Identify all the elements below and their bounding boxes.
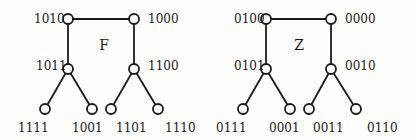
- edge-0010-0110: [331, 69, 356, 109]
- edge-1100-1101: [111, 69, 134, 109]
- node-1101: [106, 104, 116, 114]
- node-label-1011: 1011: [36, 59, 67, 73]
- node-label-1101: 1101: [116, 121, 147, 135]
- edge-0010-0011: [309, 69, 331, 109]
- node-0011: [304, 104, 314, 114]
- node-label-0111: 0111: [216, 121, 247, 135]
- node-label-0000: 0000: [345, 12, 376, 26]
- node-label-0100: 0100: [234, 12, 265, 26]
- node-1000: [129, 14, 139, 24]
- node-0110: [351, 104, 361, 114]
- node-label-0110: 0110: [367, 121, 398, 135]
- node-0111: [238, 104, 248, 114]
- edge-1011-1111: [45, 69, 68, 109]
- nodes-layer: [40, 14, 361, 114]
- node-1001: [87, 104, 97, 114]
- node-label-0101: 0101: [234, 59, 265, 73]
- edge-0101-0111: [243, 69, 266, 109]
- tree-title-F: F: [99, 37, 109, 53]
- labels-layer: 10101000101111001111100111011110F0100000…: [18, 12, 398, 135]
- edge-1011-1001: [68, 69, 92, 109]
- edges-layer: [45, 19, 356, 109]
- node-1111: [40, 104, 50, 114]
- node-label-0010: 0010: [345, 59, 376, 73]
- node-1100: [129, 64, 139, 74]
- tree-title-Z: Z: [294, 37, 304, 53]
- node-0001: [285, 104, 295, 114]
- node-label-1010: 1010: [34, 12, 65, 26]
- node-label-0011: 0011: [313, 121, 344, 135]
- node-1110: [153, 104, 163, 114]
- node-label-1001: 1001: [72, 121, 103, 135]
- node-0010: [326, 64, 336, 74]
- node-label-1110: 1110: [165, 121, 196, 135]
- node-label-1000: 1000: [148, 12, 179, 26]
- edge-0101-0001: [266, 69, 290, 109]
- diagram-canvas: 10101000101111001111100111011110F0100000…: [0, 0, 415, 140]
- node-0000: [326, 14, 336, 24]
- edge-1100-1110: [134, 69, 158, 109]
- tree-diagram: 10101000101111001111100111011110F0100000…: [0, 0, 415, 140]
- node-label-1100: 1100: [148, 59, 179, 73]
- node-label-0001: 0001: [269, 121, 300, 135]
- node-label-1111: 1111: [18, 121, 49, 135]
